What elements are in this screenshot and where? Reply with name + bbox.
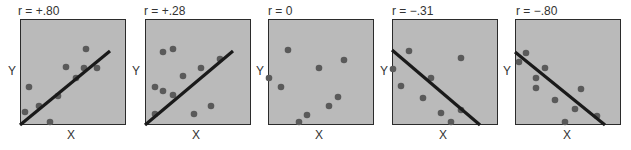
data-point [190,110,197,117]
scatter-svg [145,19,251,125]
scatter-svg [20,19,126,125]
data-point [93,64,100,71]
scatter-panel-4: r = −.31 Y X [376,0,500,150]
scatter-panel-1: r = +.80 Y X [0,0,128,150]
regression-line [145,51,233,125]
data-point [325,102,332,109]
data-point [25,83,32,90]
data-point [515,58,522,65]
data-point [532,84,539,91]
x-axis-label: X [439,128,447,142]
data-point [159,87,166,94]
data-point [397,82,404,89]
data-point [21,108,28,115]
panel-title: r = −.80 [516,4,557,18]
plot-area [20,19,126,125]
data-point [46,118,53,125]
panel-title: r = +.28 [144,4,185,18]
scatter-panel-2: r = +.28 Y X [128,0,252,150]
panel-title: r = +.80 [18,4,59,18]
plot-area [392,19,498,125]
data-point [405,47,412,54]
regression-line [392,50,480,125]
y-axis-label: Y [8,64,16,78]
data-point [522,49,529,56]
y-axis-label: Y [132,64,140,78]
data-point [315,64,322,71]
y-axis-label: Y [380,64,388,78]
data-point [82,45,89,52]
data-point [265,74,272,81]
scatter-svg [268,19,374,125]
data-point [197,64,204,71]
data-point [284,46,291,53]
data-point [437,109,444,116]
regression-line [515,52,605,125]
data-point [303,111,310,118]
scatter-panel-5: r = −.80 Y X [500,0,631,150]
data-point [179,72,186,79]
x-axis-label: X [315,128,323,142]
x-axis-label: X [563,128,571,142]
scatter-svg [392,19,498,125]
y-axis-label: Y [256,64,264,78]
data-point [561,118,568,125]
data-point [62,63,69,70]
plot-area [268,19,374,125]
scatter-svg [515,19,621,125]
data-point [419,94,426,101]
x-axis-label: X [192,128,200,142]
regression-line [20,51,110,125]
data-point [207,102,214,109]
data-point [277,83,284,90]
scatter-panel-3: r = 0 Y X [252,0,376,150]
data-point [169,91,176,98]
plot-area [145,19,251,125]
data-point [457,54,464,61]
data-point [389,65,396,72]
panel-title: r = 0 [268,4,292,18]
data-point [571,105,578,112]
data-point [295,118,302,125]
data-point [169,45,176,52]
data-point [159,48,166,55]
panel-title: r = −.31 [392,4,433,18]
data-point [577,85,584,92]
x-axis-label: X [67,128,75,142]
data-point [151,83,158,90]
data-point [447,118,454,125]
data-point [340,56,347,63]
data-point [334,93,341,100]
data-point [541,64,548,71]
data-point [551,96,558,103]
data-point [532,74,539,81]
y-axis-label: Y [503,64,511,78]
plot-area [515,19,621,125]
